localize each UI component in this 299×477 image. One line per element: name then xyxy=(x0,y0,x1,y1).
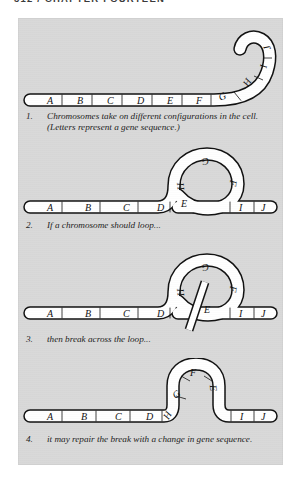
gene-label-A: A xyxy=(46,308,54,319)
gene-label-F: F xyxy=(195,95,203,106)
figure-caption-2: 2. If a chromosome should loop... xyxy=(26,220,274,231)
loop-label-G: G xyxy=(201,155,210,167)
caption-number-3: 3. xyxy=(26,334,41,345)
caption-number-1: 1. xyxy=(26,111,41,122)
gene-label-C: C xyxy=(123,308,130,319)
arch-label-F: F xyxy=(189,367,197,378)
gene-label-I: I xyxy=(238,308,243,319)
running-head: 312 / CHAPTER FOURTEEN xyxy=(0,0,299,3)
gene-label-A: A xyxy=(46,411,54,422)
gene-label-C: C xyxy=(107,95,114,106)
gene-label-B: B xyxy=(81,411,87,422)
gene-label-I: I xyxy=(238,202,243,213)
step-2-artwork: A B C D I J G H F E xyxy=(18,140,283,218)
figure-caption-1: 1. Chromosomes take on different configu… xyxy=(26,111,274,133)
gene-label-D: D xyxy=(145,411,154,422)
chromosome-body-4 xyxy=(30,364,271,416)
gene-label-D: D xyxy=(156,202,165,213)
loop-label-G: G xyxy=(201,261,210,273)
figure-panel: A B C D E F G H I J 1. Chromosomes take … xyxy=(18,18,283,465)
figure-caption-4: 4. it may repair the break with a change… xyxy=(26,434,274,445)
gene-label-A: A xyxy=(46,95,54,106)
gene-label-I: I xyxy=(239,411,244,422)
caption-text-1: Chromosomes take on different configurat… xyxy=(47,111,274,133)
gene-label-B: B xyxy=(77,95,83,106)
caption-text-2: If a chromosome should loop... xyxy=(47,220,274,231)
step-4-artwork: A B C D H G F E I J xyxy=(18,358,283,430)
gene-label-A: A xyxy=(46,202,54,213)
gene-label-J: J xyxy=(261,308,266,319)
gene-label-C: C xyxy=(115,411,122,422)
caption-text-4: it may repair the break with a change in… xyxy=(47,434,274,445)
loop-label-E: E xyxy=(203,304,210,315)
figure-caption-3: 3. then break across the loop... xyxy=(26,334,274,345)
gene-label-C: C xyxy=(123,202,130,213)
gene-label-B: B xyxy=(85,308,91,319)
step-1-artwork: A B C D E F G H I J xyxy=(18,22,283,110)
caption-text-3: then break across the loop... xyxy=(47,334,274,345)
loop-label-E: E xyxy=(180,198,187,209)
gene-label-D: D xyxy=(136,95,145,106)
arch-label-E: E xyxy=(208,383,220,391)
gene-label-B: B xyxy=(85,202,91,213)
chromosome-outline-4 xyxy=(30,364,271,416)
chromosome-outline-1 xyxy=(30,37,270,100)
gene-label-J: J xyxy=(261,411,266,422)
caption-number-4: 4. xyxy=(26,434,41,445)
step-3-artwork: A B C D I J G H F E xyxy=(18,246,283,332)
gene-label-E: E xyxy=(166,95,173,106)
gene-label-D: D xyxy=(156,308,165,319)
gene-label-J: J xyxy=(261,202,266,213)
caption-number-2: 2. xyxy=(26,220,41,231)
